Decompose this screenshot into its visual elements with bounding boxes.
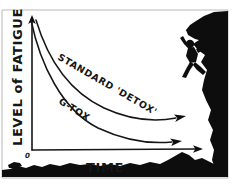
x-axis-label: TIME (86, 160, 124, 175)
curve-label-g-tox: G-TOX (57, 95, 92, 123)
cartoon-chart-figure: LEVEL of FATIGUE TIME 0 STANDARD 'DETOX'… (0, 0, 243, 188)
y-axis-label: LEVEL of FATIGUE (10, 8, 25, 146)
origin-label: 0 (25, 152, 30, 160)
chart-labels: LEVEL of FATIGUE TIME 0 STANDARD 'DETOX'… (0, 0, 243, 188)
